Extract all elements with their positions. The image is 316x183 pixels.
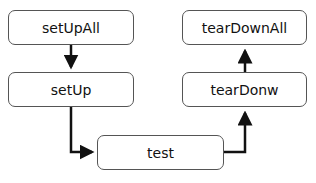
node-teardownall: tearDownAll — [182, 10, 307, 45]
edge-setup-test — [71, 107, 92, 152]
node-label: setUpAll — [42, 20, 100, 36]
node-test: test — [97, 135, 224, 170]
edge-test-teardonw — [224, 113, 245, 152]
node-label: tearDownAll — [202, 20, 287, 36]
node-setupall: setUpAll — [8, 10, 134, 45]
node-label: setUp — [51, 82, 92, 98]
node-setup: setUp — [8, 72, 134, 107]
node-teardonw: tearDonw — [182, 72, 307, 107]
node-label: test — [147, 145, 174, 161]
node-label: tearDonw — [210, 82, 278, 98]
